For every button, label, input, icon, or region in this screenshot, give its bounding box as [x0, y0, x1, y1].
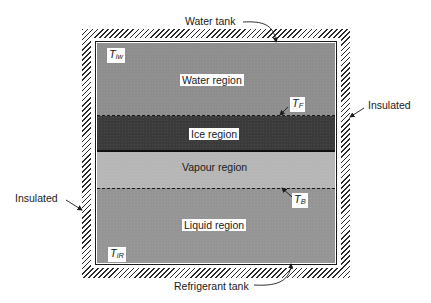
symbol-t-iw: Tiw — [107, 48, 125, 63]
liquid-region-label: Liquid region — [182, 219, 246, 231]
symbol-t-f: TF — [290, 97, 305, 112]
symbol-t-b: TB — [292, 193, 308, 208]
symbol-t-ir: TiR — [108, 247, 126, 262]
insulated-left-arrow — [66, 200, 82, 210]
water-region-label: Water region — [180, 74, 244, 86]
insulated-right-arrow — [350, 108, 364, 117]
insulated-left-label: Insulated — [15, 192, 58, 204]
boiling-front-line — [97, 188, 335, 189]
freezing-front-line — [97, 115, 335, 116]
insulated-right-label: Insulated — [368, 99, 411, 111]
water-tank-label: Water tank — [185, 15, 235, 27]
ice-region-label: Ice region — [189, 128, 239, 140]
vapour-region-label: Vapour region — [180, 161, 249, 173]
refrigerant-tank-label: Refrigerant tank — [174, 280, 249, 292]
